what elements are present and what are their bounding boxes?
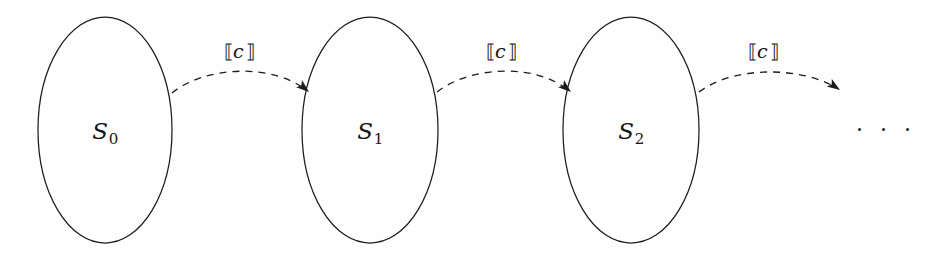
edge-s1-s2-label: ⟦c⟧ — [486, 42, 515, 61]
node-s0-base: S — [92, 118, 108, 144]
edge-s1-s2-path — [437, 71, 568, 92]
semantic-bracket-close-icon: ⟧ — [246, 42, 252, 61]
node-s1-label: S1 — [357, 120, 383, 143]
edge-s1-s2 — [437, 71, 574, 95]
node-s2-subscript: 2 — [635, 130, 645, 148]
node-s1-subscript: 1 — [374, 130, 384, 148]
node-s2-label: S2 — [618, 120, 644, 143]
edge-s2-continuation — [699, 72, 843, 94]
edge-s2-continuation-arrowhead — [827, 79, 843, 94]
node-s0-label: S0 — [92, 120, 118, 143]
edge-s2-continuation-symbol: c — [754, 42, 770, 61]
edge-group — [172, 71, 843, 95]
edge-s0-s1-symbol: c — [230, 42, 246, 61]
edge-s0-s1-label: ⟦c⟧ — [224, 42, 253, 61]
edge-s2-continuation-label: ⟦c⟧ — [748, 42, 777, 61]
edge-s0-s1 — [172, 71, 312, 95]
node-s1-base: S — [357, 118, 373, 144]
semantic-bracket-close-icon: ⟧ — [508, 42, 514, 61]
edge-s2-continuation-path — [699, 72, 837, 92]
semantic-bracket-close-icon: ⟧ — [770, 42, 776, 61]
node-s0-subscript: 0 — [109, 130, 119, 148]
diagram-canvas — [0, 0, 942, 260]
edge-s0-s1-path — [172, 71, 306, 93]
state-transition-figure: S0 S1 S2 ⟦c⟧ ⟦c⟧ ⟦c⟧ · · · — [0, 0, 942, 260]
edge-s1-s2-symbol: c — [492, 42, 508, 61]
edge-s0-s1-arrowhead — [296, 80, 312, 95]
continuation-ellipsis: · · · — [856, 119, 916, 141]
node-s2-base: S — [618, 118, 634, 144]
